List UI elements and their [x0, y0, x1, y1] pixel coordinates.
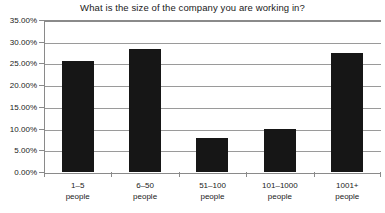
bar-slot	[246, 20, 313, 172]
y-axis: 0.00%5.00%10.00%15.00%20.00%25.00%30.00%…	[0, 20, 44, 172]
y-tick-label: 35.00%	[10, 16, 37, 25]
x-axis-label-range: 51–100	[179, 180, 246, 191]
x-axis-label-range: 1001+	[314, 180, 381, 191]
bar-1001-people[interactable]	[331, 53, 363, 172]
y-tick-label: 20.00%	[10, 81, 37, 90]
y-tick-label: 30.00%	[10, 37, 37, 46]
x-axis-label: 6–50people	[111, 180, 178, 202]
bars-layer	[44, 20, 381, 172]
bar-101-1000-people[interactable]	[264, 129, 296, 172]
y-tick-label: 15.00%	[10, 102, 37, 111]
chart-title: What is the size of the company you are …	[0, 2, 385, 13]
bar-slot	[179, 20, 246, 172]
x-axis-label: 1–5people	[44, 180, 111, 202]
y-tick-label: 5.00%	[14, 146, 37, 155]
x-axis-label-unit: people	[44, 191, 111, 202]
x-axis: 1–5people6–50people51–100people101–1000p…	[44, 172, 381, 213]
y-tick-label: 25.00%	[10, 59, 37, 68]
x-axis-label-range: 101–1000	[246, 180, 313, 191]
x-axis-label-unit: people	[111, 191, 178, 202]
x-axis-label-unit: people	[314, 191, 381, 202]
bar-1-5-people[interactable]	[62, 61, 94, 172]
bar-slot	[44, 20, 111, 172]
bar-slot	[314, 20, 381, 172]
x-tick-mark	[111, 172, 112, 177]
x-axis-label: 51–100people	[179, 180, 246, 202]
x-axis-label-range: 1–5	[44, 180, 111, 191]
bar-6-50-people[interactable]	[129, 49, 161, 172]
x-tick-mark	[314, 172, 315, 177]
x-axis-label-range: 6–50	[111, 180, 178, 191]
x-tick-mark	[380, 172, 381, 177]
x-axis-label: 1001+people	[314, 180, 381, 202]
x-axis-label-unit: people	[179, 191, 246, 202]
bar-chart: What is the size of the company you are …	[0, 0, 385, 213]
x-tick-mark	[44, 172, 45, 177]
y-tick-label: 10.00%	[10, 124, 37, 133]
x-tick-mark	[179, 172, 180, 177]
bar-51-100-people[interactable]	[196, 138, 228, 172]
bar-slot	[111, 20, 178, 172]
x-axis-label-unit: people	[246, 191, 313, 202]
y-tick-label: 0.00%	[14, 168, 37, 177]
x-axis-label: 101–1000people	[246, 180, 313, 202]
x-tick-mark	[246, 172, 247, 177]
